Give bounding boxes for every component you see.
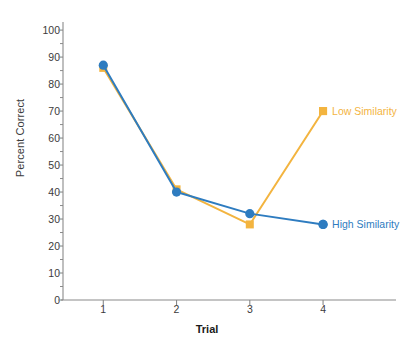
series-line-0: [103, 68, 323, 225]
series-line-1: [103, 65, 323, 224]
data-point-marker: [99, 61, 108, 70]
x-tick-label: 1: [88, 303, 118, 315]
percent-correct-line-chart: Percent Correct 0102030405060708090100 1…: [0, 0, 414, 350]
x-tick-label: 4: [308, 303, 338, 315]
data-point-marker: [172, 187, 181, 196]
series-label-high-similarity: High Similarity: [332, 218, 399, 230]
x-tick-label: 2: [162, 303, 192, 315]
plot-area: [0, 0, 414, 350]
x-axis-tick-labels: 1234: [0, 303, 414, 323]
series-label-marker: [318, 220, 327, 229]
x-axis-title: Trial: [0, 323, 414, 335]
data-point-marker: [246, 220, 254, 228]
data-point-marker: [245, 209, 254, 218]
series-label-marker: [319, 107, 327, 115]
x-tick-label: 3: [235, 303, 265, 315]
series-label-low-similarity: Low Similarity: [332, 105, 397, 117]
